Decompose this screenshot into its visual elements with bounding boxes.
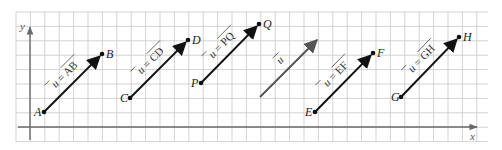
overarrow-icon [315,80,320,85]
start-point-label: G [391,90,400,104]
end-point [371,51,376,56]
vector-equation-label: u = EF [315,54,354,94]
end-point [100,52,105,57]
svg-text:u = CD: u = CD [134,44,166,76]
free-vector-u: u [260,40,317,97]
vector-equation-label: u = CD [130,40,170,80]
start-point [313,110,318,115]
end-point-label: H [462,30,473,44]
y-axis-label: y [19,20,25,32]
end-point-label: D [191,33,201,47]
end-point-label: Q [263,17,272,31]
x-axis-label: x [469,130,475,142]
start-point-label: E [304,105,313,119]
end-point-label: B [106,47,114,61]
end-point [457,35,462,40]
vector-diagram: x y ABu = ABCDu = CDPQu = PQEFu = EFGHu … [0,0,502,150]
svg-text:u = AB: u = AB [49,59,80,90]
vector-pq: PQu = PQ [190,17,272,90]
vector-arrow [260,40,317,97]
vector-equation-label: u = AB [44,54,84,94]
vector-equation-label: u = GH [401,38,440,78]
vector-equation-label: u = PQ [201,25,240,65]
end-point [186,38,191,43]
start-point [42,110,47,115]
start-point-label: C [120,91,129,105]
start-point-label: P [190,76,199,90]
start-point-label: A [33,105,42,119]
start-point [128,96,133,101]
end-point-label: F [376,46,385,60]
start-point [199,81,204,86]
free-vector-label: u [273,53,287,67]
end-point [257,22,262,27]
axes: x y [18,20,477,142]
vector-ef: EFu = EF [304,46,385,119]
vectors: ABu = ABCDu = CDPQu = PQEFu = EFGHu = GH [33,17,473,119]
